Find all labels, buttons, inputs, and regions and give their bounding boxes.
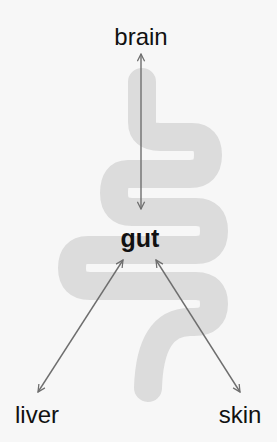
node-skin-label: skin <box>219 403 262 427</box>
node-gut-label: gut <box>121 226 160 251</box>
node-liver-label: liver <box>15 403 59 427</box>
diagram-canvas <box>0 0 277 442</box>
node-brain-label: brain <box>114 25 167 49</box>
